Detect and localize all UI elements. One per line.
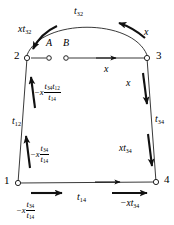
label-left-lower-flow: −xt34t14 xyxy=(30,144,49,165)
label-top-edge-x: x xyxy=(104,64,108,74)
node-label-3: 3 xyxy=(156,50,162,61)
node-label-1: 1 xyxy=(4,175,10,186)
node-2-marker[interactable] xyxy=(24,55,29,60)
label-bottom-left-flow: −xt34t14 xyxy=(16,200,35,221)
label-arc-left-xt32: xt32 xyxy=(18,24,31,35)
label-arc-right-x: x xyxy=(144,27,148,37)
edge-1-4 xyxy=(18,182,156,183)
label-left-upper-flow: −xt34t12t14 xyxy=(34,82,61,103)
node-4-marker[interactable] xyxy=(153,179,158,184)
edge-arc-3-2 xyxy=(27,27,147,55)
node-3-marker[interactable] xyxy=(144,55,149,60)
label-right-upper-x: x xyxy=(126,78,130,88)
graph-nodes xyxy=(15,55,158,185)
node-label-4: 4 xyxy=(164,174,170,185)
flow-arrow-arc-right xyxy=(119,23,145,38)
node-label-2: 2 xyxy=(14,50,20,61)
label-right-lower-xt34: xt34 xyxy=(119,144,132,155)
node-A-marker[interactable] xyxy=(47,56,52,61)
node-1-marker[interactable] xyxy=(15,180,20,185)
label-bottom-right-flow: −xt34 xyxy=(120,199,139,210)
signal-flow-diagram: 2 3 1 4 A B t32 xt32 x x t12 −xt34t12t14… xyxy=(0,0,174,225)
edge-direction-markers xyxy=(95,58,120,182)
flow-arrow-arc-left xyxy=(33,26,57,49)
flow-arrow-right-lower xyxy=(148,134,152,166)
label-edge-t14: t14 xyxy=(77,192,86,203)
label-arc-t32: t32 xyxy=(74,6,83,17)
node-label-B: B xyxy=(63,38,69,48)
flow-arrows xyxy=(26,23,152,193)
node-label-A: A xyxy=(46,38,52,48)
label-edge-t34: t34 xyxy=(155,114,164,125)
label-edge-t12: t12 xyxy=(12,116,21,127)
node-B-marker[interactable] xyxy=(64,56,69,61)
flow-arrow-right-upper xyxy=(143,73,147,104)
